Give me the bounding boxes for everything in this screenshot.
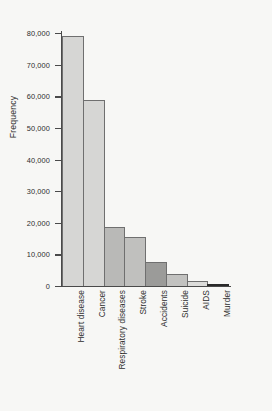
bar — [104, 227, 126, 286]
bar — [62, 36, 84, 286]
y-axis-tick-label: 10,000 — [27, 250, 50, 259]
y-axis-tick — [55, 191, 62, 192]
y-axis-tick-label: 80,000 — [27, 29, 50, 38]
y-axis-tick — [55, 128, 62, 129]
x-axis-tick-label: AIDS — [201, 290, 211, 310]
y-axis-tick — [55, 286, 62, 287]
bar — [166, 274, 188, 286]
x-axis-labels: Heart diseaseCancerRespiratory diseasesS… — [62, 290, 229, 408]
y-axis-tick-label: 20,000 — [27, 218, 50, 227]
x-axis-tick-label: Stroke — [138, 290, 148, 315]
bar — [83, 100, 105, 286]
y-axis-title: Frequency — [8, 62, 18, 172]
y-axis-tick — [55, 160, 62, 161]
x-axis-tick-label: Heart disease — [76, 290, 86, 343]
bar — [187, 281, 209, 286]
x-axis-tick-label: Suicide — [180, 290, 190, 318]
y-axis-tick — [55, 223, 62, 224]
bar — [207, 284, 229, 286]
x-axis-tick-label: Respiratory diseases — [117, 290, 127, 369]
x-axis-line — [61, 286, 231, 287]
x-axis-tick-label: Cancer — [97, 290, 107, 317]
y-axis-tick-label: 40,000 — [27, 155, 50, 164]
y-axis-tick-label: 30,000 — [27, 187, 50, 196]
y-axis-tick — [55, 33, 62, 34]
x-axis-tick-label: Murder — [222, 290, 232, 317]
y-axis-tick-label: 0 — [46, 282, 50, 291]
y-axis-tick-label: 70,000 — [27, 60, 50, 69]
bar — [145, 262, 167, 286]
bar — [124, 237, 146, 286]
y-axis-tick-label: 60,000 — [27, 92, 50, 101]
y-axis-tick — [55, 254, 62, 255]
y-axis-tick — [55, 96, 62, 97]
y-axis-tick — [55, 65, 62, 66]
x-axis-tick-label: Accidents — [159, 290, 169, 327]
bar-series — [62, 33, 229, 286]
bar-chart: Frequency 010,00020,00030,00040,00050,00… — [0, 0, 272, 411]
y-axis-tick-label: 50,000 — [27, 123, 50, 132]
